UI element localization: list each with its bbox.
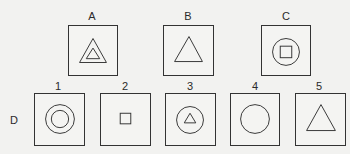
- triangle-in-circle-icon: [166, 94, 215, 145]
- figure-box-b: [163, 25, 214, 76]
- label-a: A: [82, 10, 102, 22]
- label-option-3: 3: [180, 80, 200, 92]
- figure-box-c: [261, 25, 311, 76]
- circle-icon: [231, 94, 279, 145]
- option-box-3[interactable]: [165, 93, 216, 146]
- nested-triangle-icon: [69, 26, 117, 75]
- small-square-icon: [101, 94, 150, 145]
- option-box-2[interactable]: [100, 93, 151, 146]
- label-option-4: 4: [245, 80, 265, 92]
- figure-box-a: [68, 25, 118, 76]
- label-c: C: [276, 10, 296, 22]
- triangle-icon: [296, 94, 345, 145]
- square-in-circle-icon: [262, 26, 310, 75]
- label-option-5: 5: [309, 80, 329, 92]
- label-b: B: [178, 10, 198, 22]
- label-option-1: 1: [48, 80, 68, 92]
- option-box-1[interactable]: [34, 93, 85, 146]
- label-option-2: 2: [115, 80, 135, 92]
- concentric-circles-icon: [35, 94, 84, 145]
- triangle-icon: [164, 26, 213, 75]
- option-box-5[interactable]: [295, 93, 346, 146]
- option-box-4[interactable]: [230, 93, 280, 146]
- row-label-d: D: [4, 114, 24, 126]
